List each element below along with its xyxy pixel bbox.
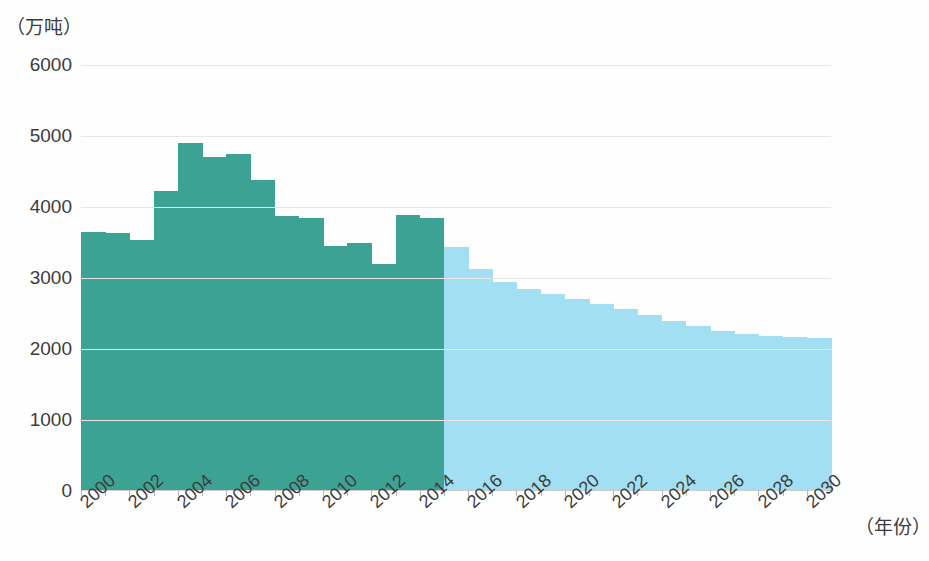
bar-2011 (347, 243, 372, 492)
bar-2007 (250, 180, 275, 491)
gridline (81, 420, 831, 421)
bar-2001 (105, 233, 130, 491)
bar-2028 (758, 336, 783, 491)
y-axis-tick-label: 1000 (6, 409, 72, 431)
bar-2010 (323, 246, 348, 491)
gridline (81, 65, 831, 66)
x-axis-tick-labels: 2000200220042006200820102012201420162018… (0, 497, 929, 561)
plot-area (81, 65, 831, 491)
gridline (81, 278, 831, 279)
bar-2025 (686, 326, 711, 491)
bar-chart: （万吨） 0100020003000400050006000 200020022… (0, 0, 929, 561)
x-axis-unit-label: （年份） (855, 512, 929, 539)
bar-2018 (516, 289, 541, 491)
bar-2022 (613, 309, 638, 491)
bar-2012 (371, 264, 396, 491)
bar-2026 (710, 331, 735, 491)
bar-2000 (81, 232, 106, 491)
bar-2024 (662, 321, 687, 491)
bar-2030 (807, 338, 832, 491)
y-axis-tick-label: 5000 (6, 125, 72, 147)
bar-2023 (637, 315, 662, 491)
bar-2014 (420, 218, 445, 491)
bar-2016 (468, 269, 493, 491)
y-axis-tick-labels: 0100020003000400050006000 (0, 0, 72, 561)
gridline (81, 136, 831, 137)
bar-2021 (589, 304, 614, 491)
bar-2017 (492, 282, 517, 491)
y-axis-tick-label: 6000 (6, 54, 72, 76)
gridline (81, 207, 831, 208)
bar-2008 (275, 216, 300, 491)
bar-2020 (565, 299, 590, 491)
bar-2019 (541, 294, 566, 491)
y-axis-tick-label: 2000 (6, 338, 72, 360)
bar-2004 (178, 143, 203, 491)
y-axis-tick-label: 4000 (6, 196, 72, 218)
bar-2006 (226, 154, 251, 491)
gridline (81, 349, 831, 350)
bar-2009 (299, 218, 324, 491)
bar-2003 (154, 191, 179, 491)
bar-2013 (396, 215, 421, 491)
bar-2027 (734, 334, 759, 491)
y-axis-tick-label: 3000 (6, 267, 72, 289)
bar-2029 (783, 337, 808, 491)
bar-2015 (444, 247, 469, 491)
